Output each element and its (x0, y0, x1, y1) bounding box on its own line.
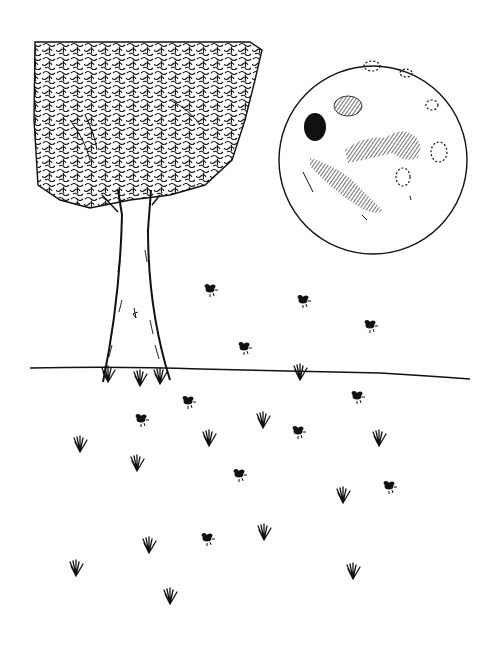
illustration-canvas (0, 0, 497, 659)
grass-tufts (70, 364, 386, 604)
tree-canopy (34, 42, 262, 208)
horizon-line (30, 367, 470, 379)
moon (279, 61, 467, 254)
tree (34, 42, 262, 382)
tree-trunk (103, 190, 170, 382)
